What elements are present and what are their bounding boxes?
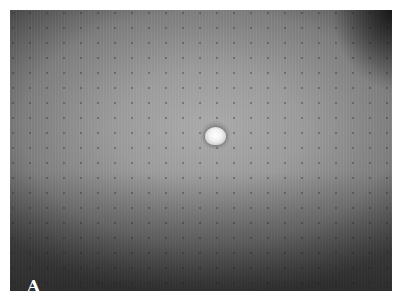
panel-label: A: [27, 276, 40, 291]
dark-corner: [332, 10, 392, 90]
clinical-photograph: A: [10, 10, 392, 291]
papule-lesion: [205, 127, 226, 145]
shadow-vignette: [10, 171, 392, 291]
